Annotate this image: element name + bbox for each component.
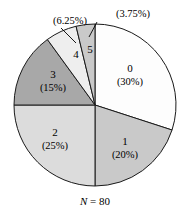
slice-percent-3: (15%) <box>40 82 67 94</box>
slice-percent-2: (25%) <box>42 140 69 152</box>
slice-label-3: 3 <box>50 68 56 80</box>
pie-wedges-group <box>14 24 176 186</box>
slice-label-1: 1 <box>122 135 128 147</box>
slice-label-0: 0 <box>127 62 133 74</box>
slice-label-2: 2 <box>52 126 58 138</box>
slice-percent-1: (20%) <box>112 149 139 161</box>
chart-caption: N = 80 <box>79 195 111 207</box>
slice-percent-0: (30%) <box>117 76 144 88</box>
caption-n-value: = 80 <box>87 195 110 207</box>
pie-chart-figure: 0(30%)1(20%)2(25%)3(15%)4(6.25%)5(3.75%)… <box>0 0 188 213</box>
slice-label-5: 5 <box>87 43 93 55</box>
slice-percent-callout-4: (6.25%) <box>53 15 88 27</box>
slice-label-4: 4 <box>73 48 79 60</box>
pie-chart-svg: 0(30%)1(20%)2(25%)3(15%)4(6.25%)5(3.75%)… <box>0 0 188 213</box>
slice-percent-callout-5: (3.75%) <box>116 8 151 20</box>
